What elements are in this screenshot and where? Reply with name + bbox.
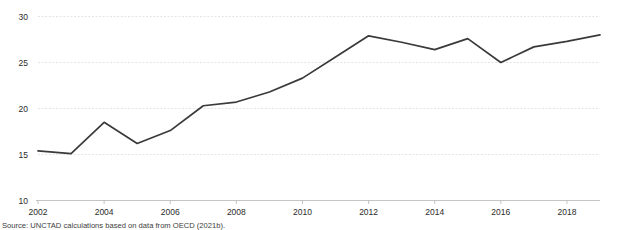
xtick-label-2012: 2012: [359, 207, 378, 217]
ytick-label-15: 15: [19, 150, 29, 160]
ytick-label-25: 25: [19, 58, 29, 68]
xtick-label-2016: 2016: [491, 207, 510, 217]
line-chart-figure: 1015202530200220042006200820102012201420…: [0, 0, 622, 230]
xtick-label-2018: 2018: [557, 207, 576, 217]
ytick-label-30: 30: [19, 12, 29, 22]
data-series-line: [38, 35, 600, 154]
xtick-label-2006: 2006: [161, 207, 180, 217]
xtick-label-2002: 2002: [29, 207, 48, 217]
source-note: Source: UNCTAD calculations based on dat…: [2, 221, 225, 230]
xtick-label-2014: 2014: [425, 207, 444, 217]
xtick-label-2004: 2004: [95, 207, 114, 217]
xtick-label-2008: 2008: [227, 207, 246, 217]
chart-plot-area: 1015202530200220042006200820102012201420…: [0, 0, 622, 230]
xtick-label-2010: 2010: [293, 207, 312, 217]
ytick-label-10: 10: [19, 196, 29, 206]
ytick-label-20: 20: [19, 104, 29, 114]
